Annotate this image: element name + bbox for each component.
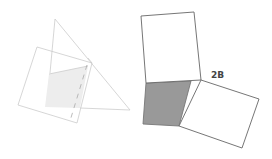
right-rectangle bbox=[179, 80, 259, 148]
diagram-canvas bbox=[0, 0, 272, 159]
left-figure bbox=[18, 19, 130, 123]
top-square bbox=[141, 12, 201, 83]
shaded-region-light bbox=[45, 66, 88, 108]
figure-label: 2B bbox=[211, 71, 224, 80]
right-figure bbox=[141, 12, 259, 148]
